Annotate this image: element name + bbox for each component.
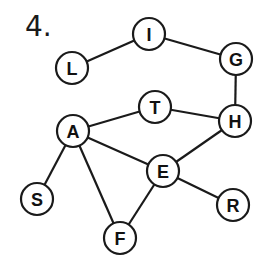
node-r: R	[217, 189, 249, 221]
node-label: R	[227, 196, 240, 216]
node-label: S	[31, 190, 43, 210]
node-h: H	[219, 105, 251, 137]
node-label: T	[150, 98, 161, 118]
node-label: G	[229, 50, 243, 70]
node-label: I	[146, 25, 151, 45]
edge-a-f	[73, 131, 120, 238]
node-a: A	[57, 115, 89, 147]
node-label: H	[229, 112, 242, 132]
node-e: E	[147, 155, 179, 187]
node-l: L	[56, 52, 88, 84]
node-i: I	[133, 18, 165, 50]
graph-diagram: LIGHTAESRF	[0, 0, 270, 268]
node-label: A	[67, 122, 80, 142]
node-label: L	[67, 59, 78, 79]
node-g: G	[220, 43, 252, 75]
node-s: S	[21, 183, 53, 215]
node-label: E	[157, 162, 169, 182]
node-t: T	[139, 91, 171, 123]
node-label: F	[115, 229, 126, 249]
node-f: F	[104, 222, 136, 254]
